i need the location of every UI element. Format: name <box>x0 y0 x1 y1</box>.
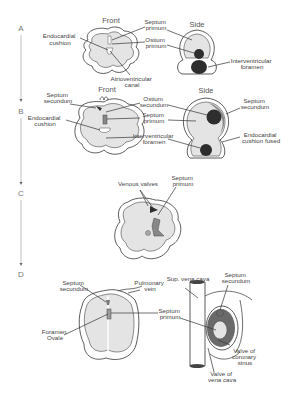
arrow-head-c <box>20 182 23 185</box>
heart-septation-diagram: A B C D Front Side Endocard <box>0 0 290 400</box>
leader-endocardial-cushion-fused-b <box>222 137 240 142</box>
front-heart-chambers-b <box>80 104 138 148</box>
stage-label-b: B <box>18 107 23 116</box>
label-ostium-primum-a: Ostium primum <box>145 36 166 49</box>
label-septum-primum-a: Septum primum <box>144 18 167 31</box>
leader-valve-vena-cava-d <box>208 348 214 372</box>
cushion-c <box>146 231 151 236</box>
interventricular-foramen-side-b <box>200 144 212 156</box>
stage-c: Venous valves Septum primum <box>115 174 195 259</box>
label-endocardial-cushion-a: Endocardial cushion <box>43 32 77 46</box>
label-valve-vena-cava-d: Valve of vena cava <box>208 370 237 383</box>
label-ostium-secundum-b: Ostium secundum <box>140 95 169 108</box>
pulmonary-inlet-b <box>100 97 108 100</box>
arrow-head-b <box>20 99 23 102</box>
leader-septum-secundum-right-b <box>226 108 240 114</box>
label-septum-primum-d: Septum primum <box>158 307 181 320</box>
septum-primum-front-b <box>103 115 107 124</box>
stage-label-a: A <box>18 24 24 33</box>
label-foramen-ovale-d: Foramen Ovale <box>42 328 69 341</box>
leader-pulmonary-vein-d <box>128 290 140 293</box>
label-venous-valves-c: Venous valves <box>118 180 158 187</box>
label-av-canal-a: Atrioventricular canal <box>111 75 154 88</box>
stage-b: Front Side Septum <box>28 85 281 158</box>
stage-b-front-header: Front <box>98 85 116 94</box>
arrow-head-d <box>20 263 23 266</box>
stage-a-front-header: Front <box>102 16 120 25</box>
stage-a: Front Side Endocardial cushion <box>43 16 274 88</box>
label-septum-secundum-right-b: Septum secundum <box>241 97 270 110</box>
label-sup-vena-cava-d: Sup. vena cava <box>167 275 210 282</box>
label-septum-secundum-left-b: Septum secundum <box>44 91 73 104</box>
label-septum-secundum-left-d: Septum secundum <box>60 279 89 292</box>
label-interventricular-foramen-a: Interventricular foramen <box>231 57 274 70</box>
interventricular-foramen-a <box>191 60 207 74</box>
label-endocardial-cushion-fused-b: Endocardial cushion fused <box>242 131 281 144</box>
stage-d: Septum secundum Pulmonary vein Foramen O… <box>42 271 258 383</box>
label-valve-coronary-sinus-d: Valve of coronary sinus <box>232 347 258 366</box>
label-septum-primum-b: Septum primum <box>142 111 165 124</box>
stage-c-heart <box>115 198 181 259</box>
stage-timeline: A B C D <box>18 24 24 279</box>
ostium-primum-a <box>194 49 204 59</box>
label-septum-secundum-right-d: Septum secundum <box>222 271 251 284</box>
stage-b-side-heart <box>183 98 228 158</box>
stage-label-d: D <box>18 270 24 279</box>
inf-vena-cava-opening-d <box>190 364 205 368</box>
label-septum-primum-c: Septum primum <box>171 174 194 187</box>
stage-d-front-heart <box>79 290 139 360</box>
stage-b-side-header: Side <box>198 86 213 95</box>
stage-label-c: C <box>18 189 24 198</box>
stage-a-front-heart <box>83 27 139 74</box>
stage-a-side-header: Side <box>189 20 204 29</box>
label-endocardial-cushion-b: Endocardial cushion <box>28 114 62 127</box>
ostium-secundum-side-b <box>207 110 222 125</box>
atrial-wall-top-d <box>205 291 252 300</box>
septum-primum-front-a <box>108 36 111 44</box>
